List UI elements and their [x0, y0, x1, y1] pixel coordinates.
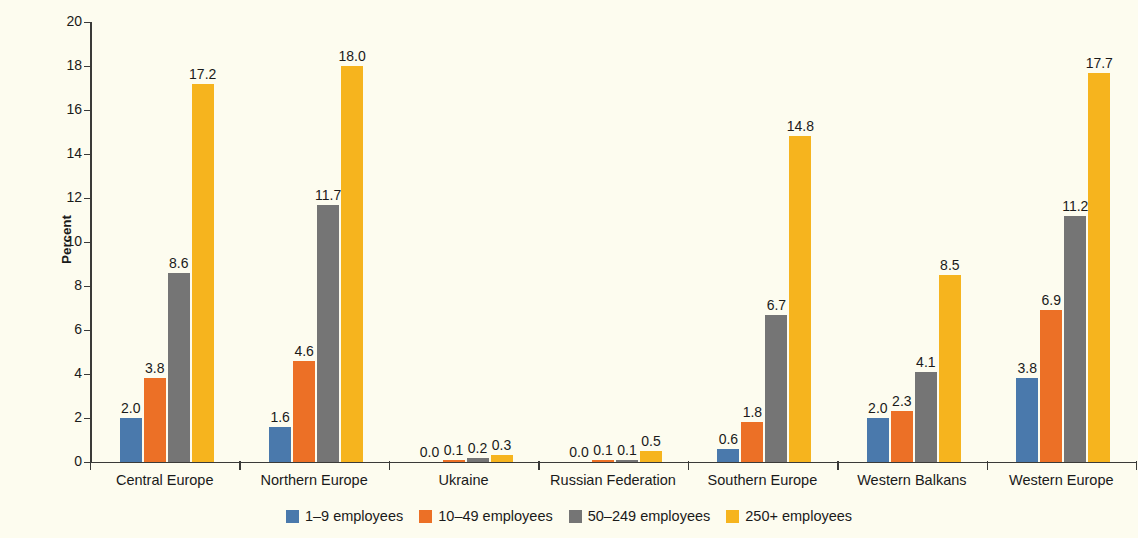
- bar-group: 0.00.10.10.5: [538, 22, 687, 462]
- bar: [341, 66, 363, 462]
- y-axis-tick-mark: [84, 198, 90, 199]
- y-axis-tick-mark: [84, 66, 90, 67]
- bar: [443, 460, 465, 462]
- bar-value-label: 0.5: [641, 434, 660, 448]
- x-axis-tick-mark: [987, 461, 988, 470]
- x-axis-tick-mark: [389, 461, 390, 470]
- bottom-edge: [0, 538, 1138, 542]
- y-axis-tick-mark: [84, 154, 90, 155]
- bar-value-label: 11.2: [1062, 199, 1088, 213]
- bar: [939, 275, 961, 462]
- x-axis-category-label: Russian Federation: [538, 472, 687, 488]
- bar: [120, 418, 142, 462]
- bar: [1016, 378, 1038, 462]
- bar-value-label: 3.8: [1018, 361, 1037, 375]
- bar: [640, 451, 662, 462]
- bar: [1088, 73, 1110, 462]
- bar-value-label: 2.3: [892, 394, 911, 408]
- bar-value-label: 0.6: [719, 432, 738, 446]
- legend-item: 250+ employees: [726, 508, 852, 524]
- bar: [491, 455, 513, 462]
- bar-value-label: 8.6: [169, 256, 188, 270]
- y-axis-tick-mark: [84, 418, 90, 419]
- bar-value-label: 2.0: [121, 401, 140, 415]
- bar-group: 2.03.88.617.2: [90, 22, 239, 462]
- bar-value-label: 0.1: [617, 443, 636, 457]
- bar-value-label: 0.1: [593, 443, 612, 457]
- bar-chart: Percent 20181614121086420 2.03.88.617.21…: [0, 0, 1138, 542]
- y-axis-tick-label: 0: [56, 454, 82, 468]
- x-axis-category-label: Western Europe: [987, 472, 1136, 488]
- bar-value-label: 1.8: [743, 405, 762, 419]
- bar-value-label: 0.0: [569, 445, 588, 459]
- bar-value-label: 3.8: [145, 361, 164, 375]
- bar-group: 1.64.611.718.0: [239, 22, 388, 462]
- bar-group: 2.02.34.18.5: [837, 22, 986, 462]
- x-axis-tick-mark: [239, 461, 240, 470]
- x-axis-tick-mark: [837, 461, 838, 470]
- bar: [765, 315, 787, 462]
- bar: [1040, 310, 1062, 462]
- bar: [192, 84, 214, 462]
- bar-value-label: 17.7: [1086, 56, 1113, 70]
- bar-value-label: 0.0: [420, 445, 439, 459]
- bar: [789, 136, 811, 462]
- bar: [867, 418, 889, 462]
- bar: [741, 422, 763, 462]
- y-axis-tick-label: 4: [56, 366, 82, 380]
- bar-value-label: 4.6: [294, 344, 313, 358]
- y-axis-tick-label: 16: [56, 102, 82, 116]
- y-axis-tick-mark: [84, 374, 90, 375]
- y-axis-tick-label: 20: [56, 14, 82, 28]
- legend-item: 50–249 employees: [569, 508, 711, 524]
- bar-value-label: 6.9: [1042, 293, 1061, 307]
- bar: [616, 460, 638, 462]
- bar-value-label: 1.6: [270, 410, 289, 424]
- legend-label: 10–49 employees: [438, 508, 552, 524]
- y-axis-tick-mark: [84, 330, 90, 331]
- x-axis-category-label: Southern Europe: [688, 472, 837, 488]
- bar-value-label: 11.7: [315, 188, 341, 202]
- y-axis-tick-label: 14: [56, 146, 82, 160]
- y-axis-tick-label: 8: [56, 278, 82, 292]
- x-axis-category-label: Western Balkans: [837, 472, 986, 488]
- y-axis-tick-labels: 20181614121086420: [52, 0, 82, 542]
- y-axis-tick-mark: [84, 242, 90, 243]
- legend-item: 10–49 employees: [419, 508, 552, 524]
- x-axis-tick-mark: [538, 461, 539, 470]
- bar-value-label: 4.1: [916, 355, 935, 369]
- y-axis-tick-label: 6: [56, 322, 82, 336]
- bar-value-label: 0.1: [444, 443, 463, 457]
- bar-value-label: 18.0: [339, 49, 366, 63]
- bar-group: 3.86.911.217.7: [987, 22, 1136, 462]
- chart-legend: 1–9 employees10–49 employees50–249 emplo…: [0, 508, 1138, 524]
- bar-value-label: 14.8: [787, 119, 814, 133]
- y-axis-tick-label: 12: [56, 190, 82, 204]
- legend-label: 50–249 employees: [588, 508, 711, 524]
- bar-value-label: 0.2: [468, 441, 487, 455]
- legend-label: 250+ employees: [745, 508, 852, 524]
- y-axis-tick-label: 10: [56, 234, 82, 248]
- bar-value-label: 0.3: [492, 438, 511, 452]
- bar-group: 0.00.10.20.3: [389, 22, 538, 462]
- legend-swatch-icon: [286, 510, 299, 523]
- bar-value-label: 2.0: [868, 401, 887, 415]
- y-axis-tick-label: 2: [56, 410, 82, 424]
- bar: [144, 378, 166, 462]
- x-axis-category-label: Northern Europe: [239, 472, 388, 488]
- x-axis-tick-mark: [1136, 461, 1137, 470]
- y-axis-tick-label: 18: [56, 58, 82, 72]
- legend-label: 1–9 employees: [305, 508, 403, 524]
- bar-value-label: 8.5: [940, 258, 959, 272]
- bar: [317, 205, 339, 462]
- x-axis-tick-mark: [688, 461, 689, 470]
- bar: [293, 361, 315, 462]
- y-axis-tick-mark: [84, 22, 90, 23]
- bar: [269, 427, 291, 462]
- legend-item: 1–9 employees: [286, 508, 403, 524]
- bar-value-label: 17.2: [189, 67, 216, 81]
- bar: [717, 449, 739, 462]
- bar-group: 0.61.86.714.8: [688, 22, 837, 462]
- bar: [915, 372, 937, 462]
- y-axis-tick-mark: [84, 286, 90, 287]
